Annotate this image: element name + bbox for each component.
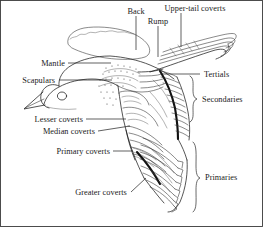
label-secondaries: Secondaries — [202, 95, 243, 104]
far-wing-outline — [68, 27, 150, 59]
throat-line — [47, 107, 76, 109]
label-scapulars: Scapulars — [22, 76, 55, 85]
label-back: Back — [127, 7, 145, 16]
label-mantle: Mantle — [41, 59, 65, 68]
label-greater-coverts: Greater coverts — [75, 188, 127, 197]
label-lesser-coverts: Lesser coverts — [35, 115, 83, 124]
leader-lines — [59, 13, 200, 192]
label-tertials: Tertials — [204, 70, 229, 79]
brace-primaries — [193, 142, 200, 212]
figure-border — [1, 1, 263, 227]
lesser-coverts-group — [120, 91, 149, 105]
wing-lower-edge — [144, 178, 164, 203]
tail-feather-3 — [158, 46, 230, 64]
tail-upper-edge — [163, 34, 236, 53]
secondaries-group — [150, 71, 190, 140]
diagram-canvas: Back Rump Upper-tail coverts Mantle Scap… — [0, 0, 263, 227]
label-upper-tail-coverts: Upper-tail coverts — [165, 4, 226, 13]
scapular-feather-edges — [100, 69, 140, 88]
label-rump: Rump — [148, 17, 168, 26]
label-layer: Back Rump Upper-tail coverts Mantle Scap… — [22, 4, 242, 197]
tail-feathers — [150, 34, 236, 73]
eye-icon — [57, 92, 66, 100]
beak-outline — [24, 92, 45, 109]
body-outline — [59, 56, 174, 86]
label-primaries: Primaries — [205, 173, 237, 182]
label-median-coverts: Median coverts — [43, 127, 95, 136]
bird-topography-figure: Back Rump Upper-tail coverts Mantle Scap… — [0, 0, 263, 227]
median-coverts-group — [123, 107, 158, 126]
far-wing-scallop — [70, 31, 134, 39]
wing-leading-edge — [118, 86, 144, 178]
leader-greater-coverts — [131, 178, 146, 192]
brace-secondaries — [190, 76, 197, 122]
tail-feather-2 — [160, 42, 233, 60]
tail-lower-edge — [150, 49, 226, 72]
label-primary-coverts: Primary coverts — [56, 147, 110, 156]
primaries-leading-edge — [137, 152, 160, 184]
scapular-stippling — [98, 64, 136, 105]
